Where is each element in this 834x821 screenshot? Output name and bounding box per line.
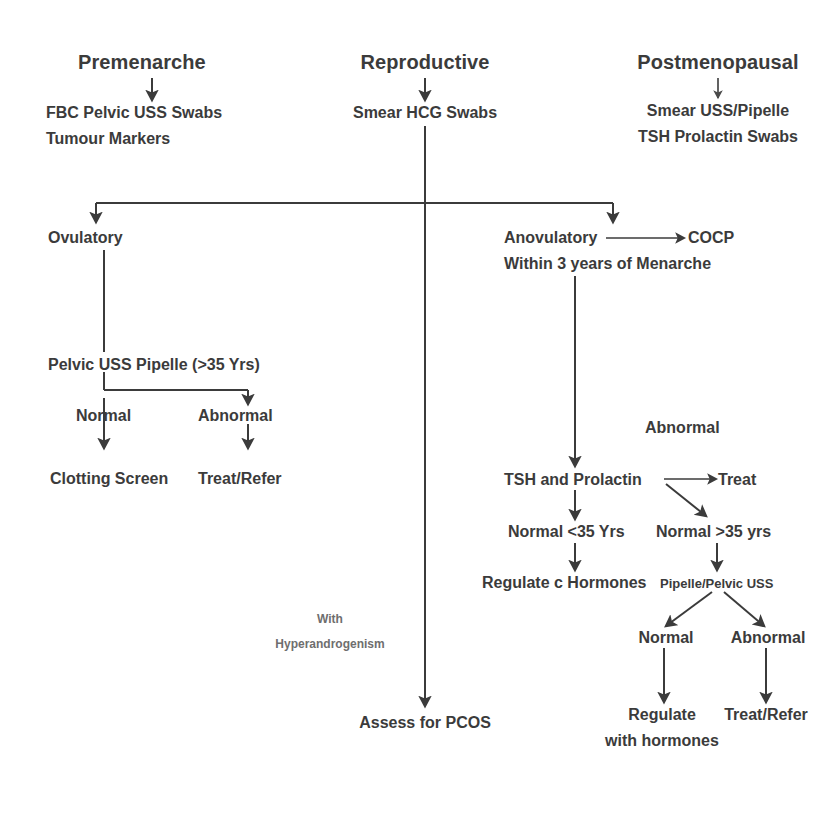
branch-anovulatory-note: Within 3 years of Menarche <box>504 254 711 274</box>
anovulatory-over35-normal: Normal <box>638 628 693 648</box>
postmenopausal-tests-line1: Smear USS/Pipelle <box>647 101 789 121</box>
anovulatory-over35-abnormal: Abnormal <box>731 628 806 648</box>
branch-cocp: COCP <box>688 228 734 248</box>
anovulatory-under35-outcome: Regulate c Hormones <box>482 573 646 593</box>
anovulatory-over35-investigation: Pipelle/Pelvic USS <box>660 576 773 593</box>
anovulatory-abnormal-label: Abnormal <box>645 418 720 438</box>
premenarche-tests-line2: Tumour Markers <box>46 129 170 149</box>
postmenopausal-tests-line2: TSH Prolactin Swabs <box>638 127 798 147</box>
column-header-premenarche: Premenarche <box>78 50 206 76</box>
edge-pipelle-to-normal <box>666 592 712 626</box>
over35-normal-outcome-line2: with hormones <box>605 731 719 751</box>
ovulatory-investigations: Pelvic USS Pipelle (>35 Yrs) <box>48 355 260 375</box>
ovulatory-normal-outcome: Clotting Screen <box>50 469 168 489</box>
edge-tsh-to-normal-over35 <box>666 484 706 516</box>
edge-pipelle-to-abnormal <box>724 592 764 626</box>
over35-abnormal-outcome: Treat/Refer <box>724 705 808 725</box>
anovulatory-treat: Treat <box>718 470 756 490</box>
anovulatory-tsh-prolactin: TSH and Prolactin <box>504 470 642 490</box>
column-header-postmenopausal: Postmenopausal <box>637 50 798 76</box>
over35-normal-outcome-line1: Regulate <box>628 705 696 725</box>
ovulatory-abnormal-label: Abnormal <box>198 406 273 426</box>
branch-ovulatory: Ovulatory <box>48 228 123 248</box>
anovulatory-normal-under35: Normal <35 Yrs <box>508 522 625 542</box>
column-header-reproductive: Reproductive <box>360 50 489 76</box>
centre-note-line2: Hyperandrogenism <box>275 637 384 652</box>
ovulatory-normal-label: Normal <box>76 406 131 426</box>
premenarche-tests-line1: FBC Pelvic USS Swabs <box>46 103 222 123</box>
centre-outcome-assess-pcos: Assess for PCOS <box>359 713 491 733</box>
centre-note-line1: With <box>317 612 343 627</box>
reproductive-tests-line1: Smear HCG Swabs <box>353 103 497 123</box>
anovulatory-normal-over35: Normal >35 yrs <box>656 522 771 542</box>
flowchart-canvas: Premenarche Reproductive Postmenopausal … <box>0 0 834 821</box>
branch-anovulatory: Anovulatory <box>504 228 597 248</box>
ovulatory-abnormal-outcome: Treat/Refer <box>198 469 282 489</box>
